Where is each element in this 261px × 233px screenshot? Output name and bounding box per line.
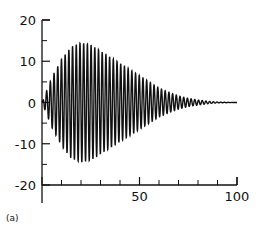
x-axis <box>42 177 237 185</box>
y-tick-label: 10 <box>19 54 36 69</box>
y-tick-label: -20 <box>15 178 36 193</box>
y-tick-label: 0 <box>28 96 36 111</box>
x-tick-label: 100 <box>225 189 250 204</box>
signal-line <box>42 43 237 162</box>
x-tick-labels: 50100 <box>131 189 249 204</box>
y-tick-labels: -20-1001020 <box>15 13 36 193</box>
y-tick-label: -10 <box>15 137 36 152</box>
chart: -20-1001020 50100 (a) <box>0 0 261 233</box>
x-tick-label: 50 <box>131 189 148 204</box>
y-tick-label: 20 <box>19 13 36 28</box>
panel-label: (a) <box>6 213 19 223</box>
